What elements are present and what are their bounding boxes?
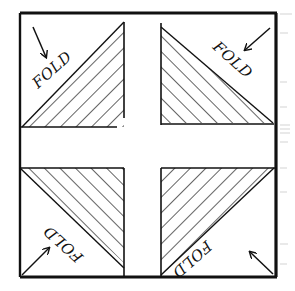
- arrow-icon: [33, 27, 46, 57]
- arrow-icon: [250, 252, 273, 274]
- quadrant-top-left: FOLD: [20, 22, 124, 127]
- quadrant-bottom-left: FOLD: [20, 168, 124, 277]
- quadrant-bottom-right: FOLD: [161, 168, 275, 282]
- arrow-icon: [22, 248, 49, 275]
- fold-diagram: FOLD FOLD FOLD FOLD: [0, 0, 295, 291]
- fold-label: FOLD: [40, 222, 87, 267]
- quadrant-top-right: FOLD: [161, 23, 274, 125]
- scan-marks: [280, 14, 292, 264]
- arrow-icon: [245, 28, 270, 50]
